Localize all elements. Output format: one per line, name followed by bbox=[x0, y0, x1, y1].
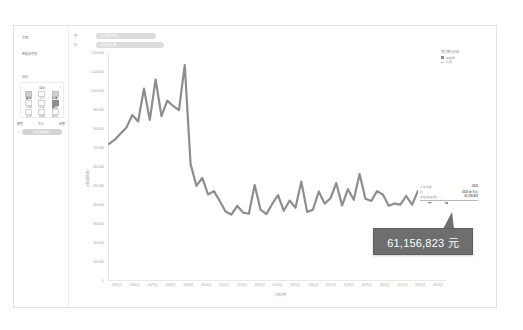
value-callout: 61,156,823 元 bbox=[373, 228, 473, 255]
x-axis-tick-label: 2009Q1 bbox=[183, 283, 193, 287]
tooltip-value: 2023 bbox=[472, 185, 478, 188]
x-axis-tick-label: 2010Q1 bbox=[201, 283, 211, 287]
data-tooltip: 订单日期 2023 月 2023 年 8 月 总和(销售额) 61,156,82… bbox=[418, 183, 480, 202]
sales-line bbox=[109, 65, 447, 214]
x-axis-tick-label: 2022Q1 bbox=[415, 283, 425, 287]
tooltip-key: 月 bbox=[420, 190, 423, 194]
x-axis-tick-label: 2008Q1 bbox=[165, 283, 175, 287]
marks-cell-more[interactable]: 其他 bbox=[49, 109, 62, 118]
label-icon bbox=[52, 91, 59, 97]
marks-field-row: ⌗ 总和(销售额) bbox=[18, 129, 62, 135]
callout-pointer-icon bbox=[443, 212, 454, 229]
tooltip-value: 61,156,823 bbox=[465, 195, 478, 198]
tooltip-divider bbox=[420, 200, 478, 201]
size-icon bbox=[38, 91, 45, 97]
sidebar-section-marks: 标记 bbox=[22, 74, 28, 79]
chevron-down-icon[interactable]: ▾ bbox=[59, 85, 61, 89]
detail-icon bbox=[25, 100, 32, 106]
marks-card-header[interactable]: 自动 ▾ bbox=[21, 83, 63, 91]
x-axis-tick-label: 2023Q1 bbox=[433, 283, 443, 287]
columns-shelf-label: 列 bbox=[74, 33, 96, 38]
x-axis-tick-label: 2013Q1 bbox=[255, 283, 265, 287]
more-icon bbox=[52, 109, 59, 115]
marks-cell-label: 其他 bbox=[52, 116, 58, 119]
chart-area: 总和(销售额) 1,200,0001,100,0001,000,000900,0… bbox=[74, 53, 485, 303]
marks-cell-color[interactable]: 颜色 bbox=[22, 91, 35, 100]
tooltip-value: 2023 年 8 月 bbox=[462, 190, 478, 194]
x-axis-tick-label: 2018Q1 bbox=[344, 283, 354, 287]
x-axis-tick-label: 2005Q1 bbox=[112, 283, 122, 287]
y-axis-tick-label: 600,000 bbox=[93, 165, 104, 169]
marks-cell-detail[interactable]: 详细 bbox=[22, 100, 35, 109]
y-axis-tick-label: 800,000 bbox=[93, 127, 104, 131]
marks-card: 自动 ▾ 颜色 大小 标签 详细 bbox=[20, 82, 64, 118]
y-axis-tick-label: 900,000 bbox=[93, 108, 104, 112]
shape-icon bbox=[25, 109, 32, 115]
color-icon bbox=[25, 91, 32, 97]
y-axis-tick-label: 100,000 bbox=[93, 260, 104, 264]
rows-field-pill[interactable]: 总和(销售额) bbox=[96, 42, 164, 48]
x-axis-tick-label: 2012Q1 bbox=[237, 283, 247, 287]
marks-cell-label: 角度 bbox=[39, 116, 45, 119]
y-axis-tick-label: 200,000 bbox=[93, 241, 104, 245]
y-axis-tick-label: 1,100,000 bbox=[91, 70, 104, 74]
x-axis-tick-label: 2007Q1 bbox=[147, 283, 157, 287]
tooltip-key: 总和(销售额) bbox=[420, 195, 437, 199]
y-axis-tick-label: 300,000 bbox=[93, 222, 104, 226]
marks-cell-path[interactable]: 路径 bbox=[49, 100, 62, 109]
x-axis-tick-label: 2006Q1 bbox=[130, 283, 140, 287]
tooltip-icon bbox=[38, 100, 45, 106]
y-axis-tick-label: 0 bbox=[102, 279, 104, 283]
x-axis-tick-label: 2014Q1 bbox=[272, 283, 282, 287]
y-axis-tick-label: 1,000,000 bbox=[91, 89, 104, 93]
shelf-area: 列 年(订单日期) 行 总和(销售额) bbox=[74, 31, 164, 49]
dashboard-window: 页面 数据源字段 标记 自动 ▾ 颜色 大小 标签 bbox=[13, 25, 497, 308]
x-axis-tick-label: 2020Q1 bbox=[379, 283, 389, 287]
marks-cell-label: 形状 bbox=[26, 116, 32, 119]
y-axis-ticks: 1,200,0001,100,0001,000,000900,000800,00… bbox=[84, 53, 106, 281]
x-axis-tick-label: 2021Q1 bbox=[397, 283, 407, 287]
marks-cell-size[interactable]: 大小 bbox=[35, 91, 48, 100]
path-icon bbox=[52, 100, 59, 106]
y-axis-tick-label: 1,200,000 bbox=[91, 51, 104, 55]
sidebar: 页面 数据源字段 标记 自动 ▾ 颜色 大小 标签 bbox=[14, 26, 69, 307]
x-axis-tick-label: 2011Q1 bbox=[219, 283, 229, 287]
columns-field-pill[interactable]: 年(订单日期) bbox=[96, 33, 156, 39]
sidebar-section-data-fields: 数据源字段 bbox=[22, 51, 38, 56]
y-axis-tick-label: 400,000 bbox=[93, 203, 104, 207]
sidebar-section-pages: 页面 bbox=[22, 35, 28, 40]
tooltip-row: 总和(销售额) 61,156,823 bbox=[420, 194, 478, 199]
columns-shelf: 列 年(订单日期) bbox=[74, 31, 164, 40]
rows-shelf: 行 总和(销售额) bbox=[74, 40, 164, 49]
marks-row-label-1: 大小 bbox=[38, 122, 44, 126]
rows-shelf-label: 行 bbox=[74, 42, 96, 47]
marks-grid: 颜色 大小 标签 详细 工具 bbox=[22, 91, 62, 116]
marks-row-label-0: 颜色 bbox=[17, 122, 23, 126]
x-axis-tick-label: 2015Q1 bbox=[290, 283, 300, 287]
measure-field-pill[interactable]: 总和(销售额) bbox=[22, 129, 62, 135]
angle-icon bbox=[38, 109, 45, 115]
marks-cell-angle[interactable]: 角度 bbox=[35, 109, 48, 118]
marks-row-labels: 颜色 大小 标签 bbox=[17, 122, 65, 126]
y-axis-tick-label: 700,000 bbox=[93, 146, 104, 150]
marks-cell-shape[interactable]: 形状 bbox=[22, 109, 35, 118]
marks-type-label: 自动 bbox=[39, 85, 45, 90]
tooltip-key: 订单日期 bbox=[420, 185, 432, 189]
y-axis-tick-label: 500,000 bbox=[93, 184, 104, 188]
x-axis-tick-label: 2019Q1 bbox=[362, 283, 372, 287]
x-axis-title: 订单日期 bbox=[74, 293, 485, 297]
marks-cell-label[interactable]: 标签 bbox=[49, 91, 62, 100]
marks-row-label-2: 标签 bbox=[59, 122, 65, 126]
abc-icon: ⌗ bbox=[18, 130, 20, 134]
x-axis-tick-label: 2017Q1 bbox=[326, 283, 336, 287]
marks-cell-tooltip[interactable]: 工具 bbox=[35, 100, 48, 109]
x-axis-tick-label: 2016Q1 bbox=[308, 283, 318, 287]
